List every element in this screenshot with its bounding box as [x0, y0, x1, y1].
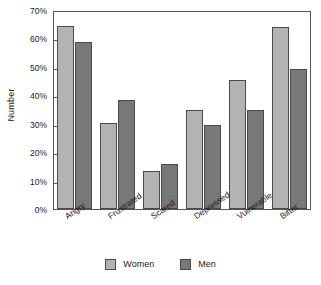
bar-group — [226, 12, 269, 209]
y-axis-tick-label: 40% — [30, 92, 47, 101]
bar-group — [140, 12, 183, 209]
y-axis-tick-mark — [54, 69, 58, 70]
y-axis-tick-label: 10% — [30, 177, 47, 186]
bar-vulnerable-women — [229, 80, 246, 209]
y-axis-tick-label: 60% — [30, 35, 47, 44]
bar-frustrated-men — [118, 100, 135, 209]
legend-item-women: Women — [105, 259, 154, 270]
legend-label: Men — [198, 260, 216, 269]
y-axis-tick-mark — [54, 126, 58, 127]
bar-group — [54, 12, 97, 209]
bars-layer — [54, 12, 310, 209]
y-axis-tick-mark — [54, 154, 58, 155]
legend-swatch-women — [105, 259, 116, 270]
chart-legend: WomenMen — [0, 259, 321, 270]
x-axis-tick-labels: AngryFrustratedScaredDepressedVulnerable… — [53, 211, 311, 257]
y-axis-title-text: Number — [6, 88, 16, 121]
y-axis-tick-label: 20% — [30, 149, 47, 158]
y-axis-tick-mark — [54, 40, 58, 41]
legend-swatch-men — [180, 259, 191, 270]
legend-item-men: Men — [180, 259, 216, 270]
bar-group — [97, 12, 140, 209]
y-axis-tick-mark — [54, 97, 58, 98]
bar-chart: Number 0%10%20%30%40%50%60%70% AngryFrus… — [0, 0, 321, 285]
y-axis-tick-mark — [54, 183, 58, 184]
bar-group — [269, 12, 312, 209]
y-axis-tick-label: 50% — [30, 64, 47, 73]
bar-scared-women — [143, 171, 160, 209]
bar-group — [183, 12, 226, 209]
bar-angry-men — [75, 42, 92, 209]
y-axis-tick-label: 30% — [30, 120, 47, 129]
bar-angry-women — [57, 26, 74, 209]
y-axis-tick-label: 70% — [30, 7, 47, 16]
bar-depressed-women — [186, 110, 203, 210]
y-axis-tick-label: 0% — [35, 206, 47, 215]
bar-bitter-men — [290, 69, 307, 209]
y-axis-tick-labels: 0%10%20%30%40%50%60%70% — [18, 0, 51, 220]
plot-area — [53, 11, 311, 210]
bar-bitter-women — [272, 27, 289, 209]
bar-frustrated-women — [100, 123, 117, 209]
legend-label: Women — [123, 260, 154, 269]
